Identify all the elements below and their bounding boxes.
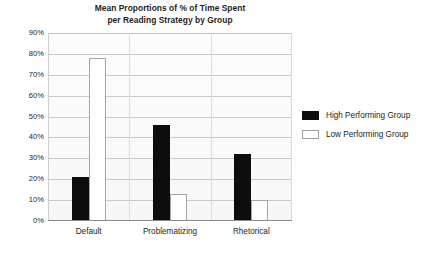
gridline-60 (48, 96, 292, 97)
y-axis-tick-label: 90% (4, 29, 44, 37)
chart-title-line-2: per Reading Strategy by Group (48, 15, 292, 27)
category-separator (211, 33, 212, 221)
legend-swatch-icon-low (302, 130, 319, 139)
legend-label-low: Low Performing Group (326, 130, 408, 140)
y-axis-line (48, 33, 49, 221)
y-axis-tick-label: 50% (4, 113, 44, 121)
y-axis-tick-label: 70% (4, 71, 44, 79)
legend-item-high-performing-group: High Performing Group (302, 108, 430, 123)
gridline-50 (48, 117, 292, 118)
x-axis-tick-label-default: Default (48, 226, 129, 237)
bar-problematizing-high (153, 125, 170, 221)
bar-default-high (72, 177, 89, 221)
bar-rhetorical-high (234, 154, 251, 221)
x-axis-line (48, 220, 292, 221)
y-axis-tick-label: 0% (4, 217, 44, 225)
plot-right-border (291, 33, 292, 221)
category-separator (129, 33, 130, 221)
chart-title-line-1: Mean Proportions of % of Time Spent (48, 3, 292, 15)
x-axis-tick-label-problematizing: Problematizing (129, 226, 210, 237)
plot-area (48, 33, 292, 221)
legend-item-low-performing-group: Low Performing Group (302, 127, 430, 142)
y-axis: 90%80%70%60%50%40%30%20%10%0% (0, 33, 44, 221)
bar-default-low (89, 58, 106, 221)
gridline-40 (48, 137, 292, 138)
x-axis-tick-label-rhetorical: Rhetorical (211, 226, 292, 237)
chart-title: Mean Proportions of % of Time Spent per … (48, 3, 292, 26)
x-axis: DefaultProblematizingRhetorical (48, 226, 292, 242)
y-axis-tick-label: 60% (4, 92, 44, 100)
y-axis-tick-label: 20% (4, 175, 44, 183)
y-axis-tick-label: 10% (4, 196, 44, 204)
gridline-30 (48, 158, 292, 159)
gridline-90 (48, 33, 292, 34)
bar-problematizing-low (170, 194, 187, 221)
gridline-80 (48, 54, 292, 55)
bar-chart: Mean Proportions of % of Time Spent per … (0, 0, 434, 254)
y-axis-tick-label: 30% (4, 154, 44, 162)
gridline-70 (48, 75, 292, 76)
legend: High Performing Group Low Performing Gro… (302, 108, 430, 146)
bar-rhetorical-low (251, 200, 268, 221)
legend-label-high: High Performing Group (326, 111, 410, 121)
y-axis-tick-label: 80% (4, 50, 44, 58)
legend-swatch-icon-high (302, 111, 319, 120)
y-axis-tick-label: 40% (4, 133, 44, 141)
